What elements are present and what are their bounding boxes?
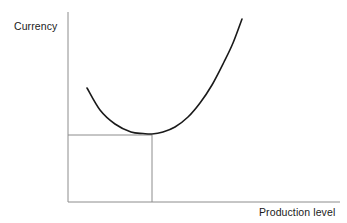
y-axis-label: Currency [14, 20, 57, 33]
cost-curve-path [87, 19, 242, 134]
plot-area [0, 0, 347, 223]
x-axis-label: Production level [259, 206, 335, 219]
cost-curve-figure: Currency Production level [0, 0, 347, 223]
